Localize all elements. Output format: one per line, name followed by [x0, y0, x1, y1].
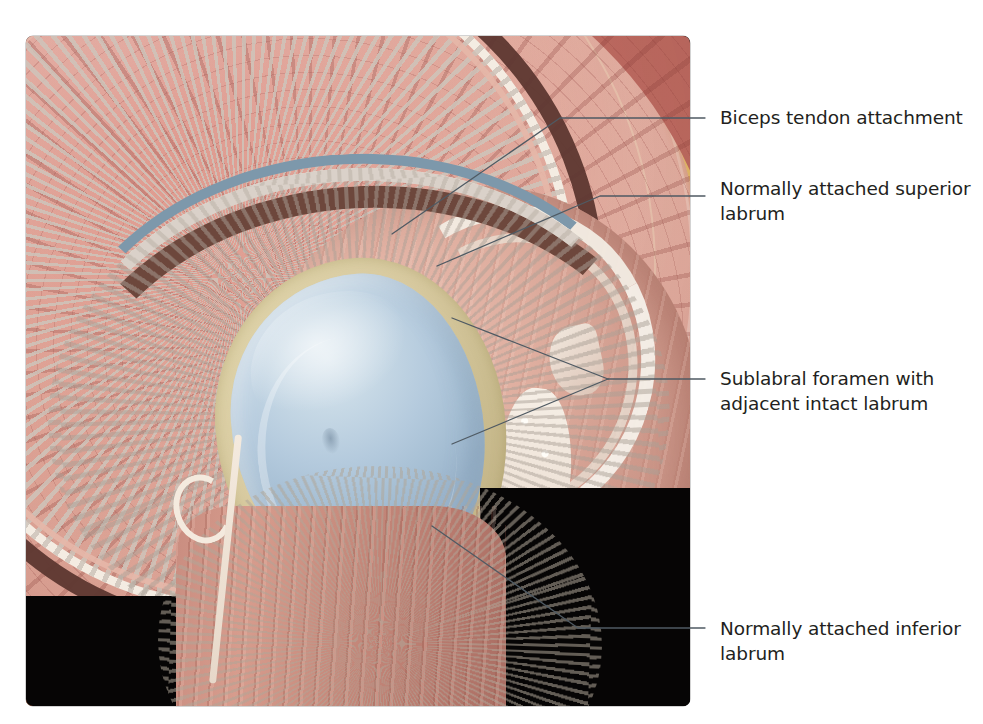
label-normally-attached-superior-labrum: Normally attached superiorlabrum — [720, 176, 971, 226]
label-line-2: labrum — [720, 203, 785, 224]
label-line-2: adjacent intact labrum — [720, 393, 928, 414]
label-line-1: Sublabral foramen with — [720, 368, 934, 389]
label-line-1: Normally attached superior — [720, 178, 971, 199]
label-line-2: labrum — [720, 643, 785, 664]
label-normally-attached-inferior-labrum: Normally attached inferiorlabrum — [720, 616, 961, 666]
label-biceps-tendon-attachment: Biceps tendon attachment — [720, 105, 963, 130]
label-line-1: Normally attached inferior — [720, 618, 961, 639]
figure-root: Biceps tendon attachment Normally attach… — [0, 0, 983, 724]
anatomical-illustration-image — [26, 36, 690, 706]
label-sublabral-foramen: Sublabral foramen withadjacent intact la… — [720, 366, 934, 416]
